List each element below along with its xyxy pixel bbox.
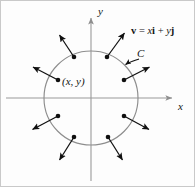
base-point-dot — [105, 55, 110, 60]
equation-equals-sign: = — [139, 25, 145, 36]
vector-field-figure: y x (x, y) C v = xi + yj — [0, 0, 195, 187]
x-axis-label: x — [178, 101, 183, 112]
equation-unit-vector-j: j — [171, 25, 175, 36]
y-axis-label: y — [98, 6, 103, 17]
vector-field-equation-label: v = xi + yj — [131, 26, 174, 37]
base-point-dot — [106, 135, 111, 140]
base-point-dot — [72, 135, 77, 140]
curve-label-c: C — [137, 48, 144, 59]
base-point-dot — [72, 55, 77, 60]
base-point-dot — [56, 78, 61, 83]
base-point-dot — [56, 114, 61, 119]
base-point-dot — [122, 78, 127, 83]
base-point-dot — [122, 114, 127, 119]
equation-plus-sign: + — [158, 25, 164, 36]
point-label: (x, y) — [62, 76, 85, 87]
